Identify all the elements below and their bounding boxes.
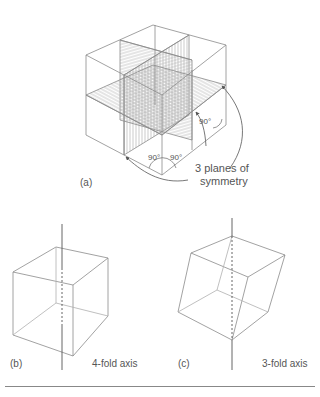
figure-c-label: (c) [178,358,190,369]
angle-label-1: 90° [148,153,160,162]
figure-a-label: (a) [80,177,92,188]
angle-label-2: 90° [170,153,182,162]
figure-b-label: (b) [10,358,22,369]
diagram-canvas [0,0,320,397]
figure-b-caption: 4-fold axis [92,358,138,369]
cube-c [178,236,285,340]
angle-label-3: 90° [199,117,211,126]
figure-c-caption: 3-fold axis [262,358,308,369]
bottom-rule [5,386,315,387]
annotation-line-2: symmetry [200,175,248,187]
cube-b [13,247,108,356]
annotation-line-1: 3 planes of [195,162,249,174]
